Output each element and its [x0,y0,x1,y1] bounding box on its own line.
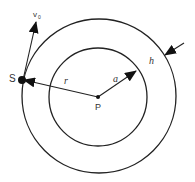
label-v-subscript: 0 [38,14,41,20]
velocity-vector [23,22,36,80]
point-s-dot [18,76,26,84]
diagram-canvas: S P v 0 r a h [0,0,195,182]
label-h: h [149,55,154,66]
point-p-dot [96,95,100,99]
thickness-h-arrow [165,43,184,55]
label-s: S [9,73,16,84]
label-v: v [33,10,37,19]
label-r: r [64,75,68,86]
label-p: P [95,102,101,112]
radius-r-line [24,80,98,97]
label-a: a [113,73,118,84]
